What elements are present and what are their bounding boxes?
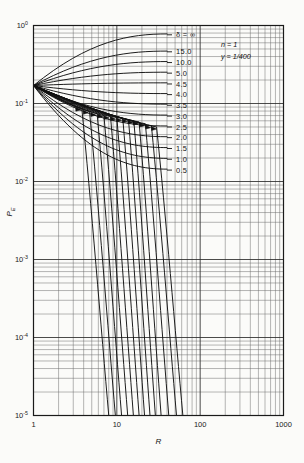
delta-label-delta-5: 5.0 bbox=[176, 69, 187, 78]
delta-label-delta-inf: δ = ∞ bbox=[176, 30, 196, 39]
delta-label-delta-1: 1.0 bbox=[176, 155, 187, 164]
delta-label-delta-4p5: 4.5 bbox=[176, 80, 187, 89]
annotation-n-value: n = 1 bbox=[221, 40, 237, 49]
delta-label-delta-2p5: 2.5 bbox=[176, 123, 187, 132]
delta-label-delta-4: 4.0 bbox=[176, 90, 187, 99]
delta-label-delta-3: 3.0 bbox=[176, 112, 187, 121]
delta-label-delta-2: 2.0 bbox=[176, 133, 187, 142]
delta-label-delta-15: 15.0 bbox=[176, 47, 192, 56]
chart-figure: 1101001000 10010-110-210-310-410-5 δ = ∞… bbox=[0, 0, 304, 463]
x-tick-label-1: 1 bbox=[31, 420, 35, 429]
x-tick-label-10: 10 bbox=[113, 420, 121, 429]
x-axis-title: R bbox=[156, 437, 162, 446]
delta-label-delta-3p5: 3.5 bbox=[176, 101, 187, 110]
x-tick-label-1000: 1000 bbox=[275, 420, 292, 429]
annotation-y-value: y = 1/400 bbox=[220, 52, 251, 61]
delta-label-delta-10: 10.0 bbox=[176, 58, 192, 67]
delta-label-delta-1p5: 1.5 bbox=[176, 144, 187, 153]
delta-label-delta-0p5: 0.5 bbox=[176, 166, 187, 175]
x-tick-label-100: 100 bbox=[194, 420, 207, 429]
log-log-chart: 1101001000 10010-110-210-310-410-5 δ = ∞… bbox=[0, 0, 304, 463]
